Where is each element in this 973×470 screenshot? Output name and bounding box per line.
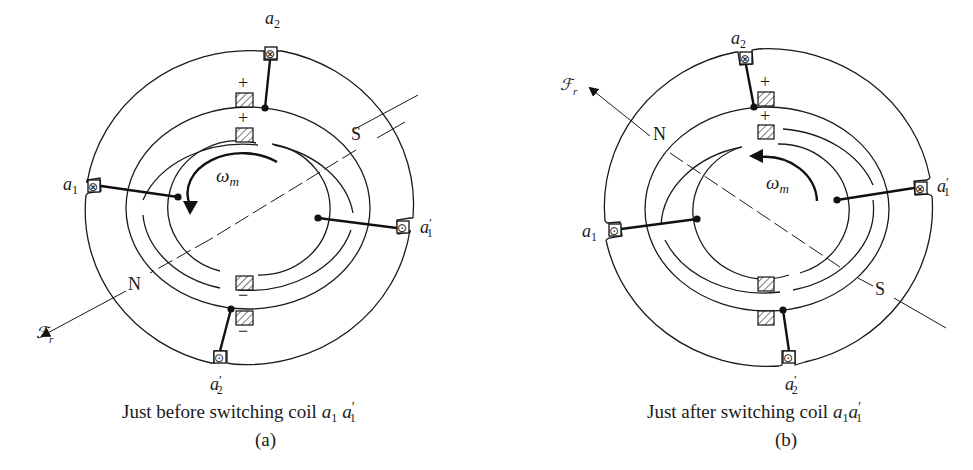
south-pole-label: S [351, 124, 361, 144]
rotation-arrow: ωm [183, 153, 277, 215]
north-pole-label: N [653, 124, 666, 144]
mmf-label: ℱr [560, 76, 578, 97]
brush-sign: − [238, 321, 248, 341]
coil-label: a1 [582, 221, 597, 244]
coil-a2-prime: ⊙ a′2 [779, 306, 805, 397]
current-into-page-icon: ⊗ [88, 180, 98, 194]
speed-label: ωm [766, 172, 789, 196]
caption-b: Just after switching coila1a′1 [647, 400, 862, 425]
south-pole-label: S [875, 279, 885, 299]
coil-label: a′2 [785, 372, 798, 397]
current-into-page-icon: ⊗ [740, 52, 750, 66]
coil-a1-prime: ⊙ a′1 [314, 214, 432, 240]
coil-label: a1 [63, 174, 78, 197]
current-out-of-page-icon: ⊙ [609, 224, 619, 238]
brush-top-outer [236, 93, 253, 107]
coil-a2: ⊗ a2 [261, 8, 282, 112]
north-pole-label: N [128, 274, 141, 294]
panel-label-b: (b) [775, 429, 797, 451]
coil-a2-prime: ⊙ a′2 [210, 305, 235, 397]
caption-a: Just before switching coila1a′1 [122, 400, 356, 425]
inner-ring [693, 144, 849, 279]
panel-b: + + ⊗ a2 ⊙ a1 ⊗ a′1 [560, 28, 950, 451]
coil-label: a′1 [420, 215, 433, 240]
panel-a: + + − − ⊗ a2 ⊗ a1 ⊙ a′1 [36, 8, 433, 451]
current-out-of-page-icon: ⊙ [214, 351, 224, 365]
rotation-arrow: ωm [749, 149, 817, 201]
brush-sign: − [238, 285, 248, 305]
mmf-label: ℱr [36, 324, 54, 345]
coil-a2: ⊗ a2 [731, 28, 758, 111]
figure-commutation-diagram: + + − − ⊗ a2 ⊗ a1 ⊙ a′1 [0, 0, 973, 470]
brush-sign: + [238, 73, 248, 93]
brush-sign: + [760, 72, 770, 92]
coil-label: a2 [265, 8, 280, 31]
current-out-of-page-icon: ⊙ [783, 351, 793, 365]
speed-label: ωm [216, 165, 239, 189]
current-out-of-page-icon: ⊙ [397, 221, 407, 235]
coil-a1: ⊙ a1 [582, 215, 701, 244]
brush-sign: + [760, 106, 770, 126]
current-into-page-icon: ⊗ [915, 182, 925, 196]
coil-label: a2 [731, 28, 746, 51]
brush-sign: + [238, 108, 248, 128]
coil-label: a′2 [210, 372, 223, 397]
brush-top-inner [236, 128, 253, 142]
panel-label-a: (a) [255, 429, 276, 451]
brush-bottom-inner [758, 277, 774, 291]
current-into-page-icon: ⊗ [265, 47, 275, 61]
brush-top-inner [758, 125, 774, 139]
brush-top-outer [758, 92, 774, 106]
coil-a1: ⊗ a1 [63, 174, 182, 201]
brush-bottom-outer [758, 311, 774, 325]
coil-label: a′1 [937, 174, 950, 199]
